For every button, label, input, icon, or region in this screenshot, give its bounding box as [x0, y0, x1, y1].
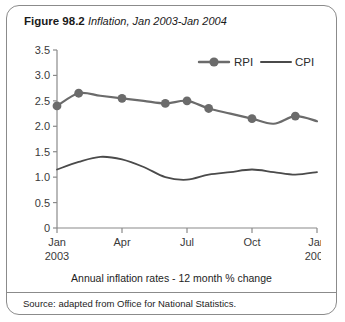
y-tick-label: 0: [44, 222, 50, 234]
chart-plot-area: 00.51.01.52.02.53.03.5 Jan2003AprJulOctJ…: [21, 40, 321, 268]
data-point-marker: [53, 102, 62, 111]
y-tick-label: 2.5: [35, 95, 50, 107]
x-tick-label: Jan: [48, 236, 66, 248]
legend-label-rpi: RPI: [234, 56, 253, 68]
data-point-marker: [248, 114, 257, 123]
y-tick-label: 3.5: [35, 44, 50, 56]
series-cpi: [57, 157, 317, 180]
x-tick-label: Jul: [180, 236, 194, 248]
y-tick-label: 1.0: [35, 171, 50, 183]
y-tick-label: 0.5: [35, 197, 50, 209]
figure-number: Figure 98.2: [24, 15, 85, 27]
x-tick-label: Apr: [113, 236, 130, 248]
chart-caption: Annual inflation rates - 12 month % chan…: [7, 272, 336, 284]
source-divider: [7, 292, 336, 293]
data-point-marker: [204, 104, 213, 113]
series-line-cpi: [57, 157, 317, 180]
data-point-marker: [291, 112, 300, 121]
chart-series-group: [53, 89, 317, 180]
y-tick-label: 2.0: [35, 120, 50, 132]
y-tick-label: 3.0: [35, 69, 50, 81]
source-note: Source: adapted from Office for National…: [23, 298, 236, 309]
legend-label-cpi: CPI: [295, 56, 314, 68]
x-tick-label: Oct: [243, 236, 260, 248]
x-axis: Jan2003AprJulOctJan2004: [45, 228, 321, 262]
figure-card: Figure 98.2 Inflation, Jan 2003-Jan 2004…: [6, 5, 337, 315]
y-tick-label: 1.5: [35, 146, 50, 158]
data-point-marker: [118, 94, 127, 103]
y-axis: 00.51.01.52.02.53.03.5: [35, 44, 57, 234]
data-point-marker: [74, 89, 83, 98]
data-point-marker: [183, 96, 192, 105]
series-rpi: [53, 89, 317, 124]
inflation-line-chart: 00.51.01.52.02.53.03.5 Jan2003AprJulOctJ…: [21, 40, 321, 268]
figure-subtitle: Inflation, Jan 2003-Jan 2004: [88, 15, 227, 27]
x-tick-sublabel: 2003: [45, 250, 69, 262]
legend-marker-rpi: [209, 57, 218, 66]
x-tick-sublabel: 2004: [305, 250, 321, 262]
figure-title: Figure 98.2 Inflation, Jan 2003-Jan 2004: [24, 15, 227, 27]
x-tick-label: Jan: [308, 236, 321, 248]
chart-legend: RPICPI: [199, 56, 314, 68]
data-point-marker: [161, 99, 170, 108]
